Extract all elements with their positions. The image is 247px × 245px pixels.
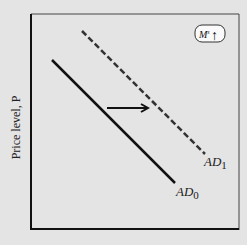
ad0-label: AD0 [175,184,199,201]
ad0-curve [52,60,175,183]
money-supply-badge: Ms ↑ [195,25,225,43]
ad1-curve [82,31,205,154]
axes-frame [31,14,239,230]
chart: AD0 AD1 Ms ↑ [0,0,247,245]
ad1-label: AD1 [203,154,227,171]
up-arrow-icon: ↑ [211,28,218,43]
